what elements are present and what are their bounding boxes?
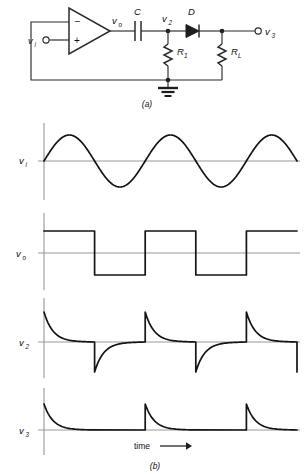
diode-triangle xyxy=(186,25,199,38)
plot-vi: v i xyxy=(19,123,300,200)
waveform-panel: v i v o v 2 xyxy=(0,110,307,474)
label-v2-sub: 2 xyxy=(168,19,173,26)
label-RL: R xyxy=(231,46,238,57)
waveform-plots: v i v o v 2 xyxy=(0,110,307,474)
opamp-plus-sign: + xyxy=(74,35,80,46)
time-arrow-icon xyxy=(160,442,192,450)
circuit-panel: v i − + v o C v 2 xyxy=(0,0,307,110)
resistor-RL xyxy=(218,44,226,66)
label-vo: v xyxy=(112,15,118,26)
output-terminal xyxy=(255,28,261,34)
time-label: time xyxy=(134,441,150,451)
plot-vo: v o xyxy=(16,213,300,290)
plot-label-v2-sub: 2 xyxy=(25,343,30,350)
label-v3: v xyxy=(265,26,271,37)
caption-a: (a) xyxy=(142,99,153,109)
label-v3-sub: 3 xyxy=(272,32,276,39)
label-R1-sub: 1 xyxy=(184,52,188,59)
label-RL-sub: L xyxy=(238,52,242,59)
v3-trace xyxy=(44,404,297,430)
opamp-minus-sign: − xyxy=(74,16,80,27)
label-v2: v xyxy=(162,13,168,24)
input-terminal xyxy=(43,37,49,43)
plot-v2: v 2 xyxy=(19,298,300,378)
label-R1: R xyxy=(177,46,184,57)
label-vi-sub: i xyxy=(35,41,37,48)
plot-label-vo-sub: o xyxy=(23,254,27,261)
plot-label-v2: v xyxy=(19,337,25,348)
plot-label-vi-sub: i xyxy=(26,161,28,168)
label-D: D xyxy=(188,6,195,17)
figure-root: v i − + v o C v 2 xyxy=(0,0,307,474)
plot-v3: v 3 xyxy=(19,388,300,455)
opamp-triangle xyxy=(69,8,110,54)
circuit-diagram: v i − + v o C v 2 xyxy=(0,0,307,110)
label-vo-sub: o xyxy=(119,21,123,28)
plot-label-vo: v xyxy=(16,248,22,259)
plot-label-v3-sub: 3 xyxy=(26,431,30,438)
plot-label-v3: v xyxy=(19,425,25,436)
ground-icon xyxy=(158,88,178,96)
label-C: C xyxy=(134,6,141,17)
resistor-R1 xyxy=(164,44,172,66)
plot-label-vi: v xyxy=(19,155,25,166)
caption-b: (b) xyxy=(150,461,161,471)
